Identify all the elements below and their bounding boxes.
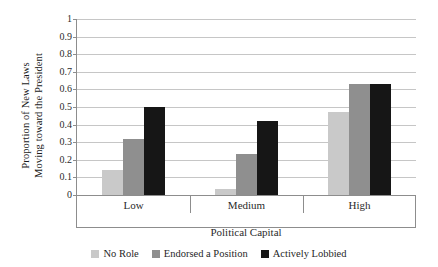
y-axis-tick-label: 0.5 bbox=[60, 102, 73, 112]
bar-chart-figure: Proportion of New Laws Moving toward the… bbox=[0, 0, 438, 267]
bar bbox=[236, 154, 257, 195]
y-axis-tick-label: 1 bbox=[67, 14, 72, 24]
bar-group-high bbox=[328, 19, 391, 195]
bar bbox=[123, 139, 144, 195]
bar bbox=[102, 170, 123, 195]
legend-item: No Role bbox=[91, 247, 138, 260]
x-axis-title: Political Capital bbox=[76, 225, 416, 239]
plot-area: 00.10.20.30.40.50.60.70.80.91 bbox=[76, 19, 416, 195]
x-axis-category-label: Medium bbox=[190, 198, 303, 212]
bar bbox=[257, 121, 278, 195]
bar bbox=[370, 84, 391, 195]
legend-item: Endorsed a Position bbox=[152, 247, 248, 260]
legend-swatch-icon bbox=[91, 250, 99, 258]
legend-item: Actively Lobbied bbox=[261, 247, 347, 260]
bar-group-medium bbox=[215, 19, 278, 195]
legend-label: No Role bbox=[103, 247, 138, 260]
y-axis-tick-label: 0.6 bbox=[60, 84, 73, 94]
x-axis-category-label: Low bbox=[77, 198, 190, 212]
legend-label: Endorsed a Position bbox=[164, 247, 248, 260]
y-axis-tick-label: 0.1 bbox=[60, 172, 73, 182]
y-axis-title-line-2: Moving toward the President bbox=[32, 21, 45, 211]
y-axis-tick-label: 0.8 bbox=[60, 49, 73, 59]
y-axis-title: Proportion of New Laws Moving toward the… bbox=[20, 21, 45, 211]
y-axis-tick-label: 0.9 bbox=[60, 32, 73, 42]
y-axis-tick-label: 0.3 bbox=[60, 137, 73, 147]
y-axis-tick-label: 0 bbox=[67, 190, 72, 200]
bars-layer bbox=[77, 19, 416, 195]
bar bbox=[349, 84, 370, 195]
y-axis-tick-label: 0.2 bbox=[60, 155, 73, 165]
legend-label: Actively Lobbied bbox=[273, 247, 347, 260]
bar bbox=[144, 107, 165, 195]
bar bbox=[328, 112, 349, 195]
bar-group-low bbox=[102, 19, 165, 195]
x-axis-category-label: High bbox=[303, 198, 416, 212]
y-axis-tick-label: 0.7 bbox=[60, 67, 73, 77]
y-axis-tick-label: 0.4 bbox=[60, 120, 73, 130]
legend-swatch-icon bbox=[261, 250, 269, 258]
legend-swatch-icon bbox=[152, 250, 160, 258]
y-axis-title-line-1: Proportion of New Laws bbox=[20, 21, 33, 211]
category-axis: LowMediumHigh bbox=[76, 195, 416, 228]
chart-legend: No RoleEndorsed a PositionActively Lobbi… bbox=[0, 247, 438, 260]
